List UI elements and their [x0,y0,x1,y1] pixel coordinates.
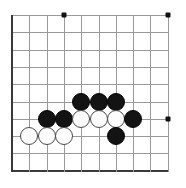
white-stone [20,127,38,145]
black-stone [38,110,56,128]
white-stone [55,127,73,145]
black-stone [90,93,108,111]
white-stone [107,110,125,128]
black-stone [72,93,90,111]
go-board-diagram [0,0,186,188]
white-stone [38,127,56,145]
white-stone [72,110,90,128]
board-stones [0,0,186,188]
white-stone [90,110,108,128]
black-stone [124,110,142,128]
black-stone [107,93,125,111]
black-stone [55,110,73,128]
black-stone [107,127,125,145]
